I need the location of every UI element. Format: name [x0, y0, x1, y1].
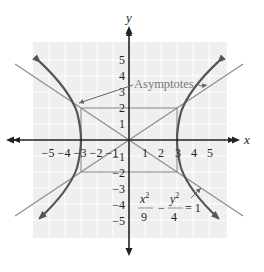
svg-text:−: − — [158, 201, 165, 215]
svg-text:1: 1 — [142, 146, 148, 160]
svg-text:−2: −2 — [90, 146, 103, 160]
svg-text:−3: −3 — [112, 182, 125, 196]
svg-text:5: 5 — [207, 146, 213, 160]
svg-text:−2: −2 — [112, 166, 125, 180]
svg-text:4: 4 — [191, 146, 197, 160]
y-axis-label: y — [124, 10, 132, 25]
svg-text:9: 9 — [141, 210, 147, 224]
svg-text:2: 2 — [119, 101, 125, 115]
svg-text:−4: −4 — [58, 146, 71, 160]
svg-text:2: 2 — [158, 146, 164, 160]
svg-text:−1: −1 — [112, 150, 125, 164]
svg-text:= 1: = 1 — [185, 201, 201, 215]
svg-text:4: 4 — [171, 210, 177, 224]
svg-text:−5: −5 — [112, 214, 125, 228]
svg-text:4: 4 — [119, 69, 125, 83]
svg-text:−4: −4 — [112, 198, 125, 212]
x-axis-label: x — [243, 132, 250, 147]
svg-text:1: 1 — [119, 117, 125, 131]
asymptotes-label: Asymptotes — [134, 77, 194, 91]
hyperbola-figure: x y −5 −4 −3 −2 −1 1 2 3 4 5 5 4 3 2 1 −… — [0, 0, 264, 272]
svg-text:3: 3 — [175, 146, 181, 160]
svg-text:−3: −3 — [74, 146, 87, 160]
svg-text:5: 5 — [119, 53, 125, 67]
svg-text:3: 3 — [119, 85, 125, 99]
svg-text:−5: −5 — [42, 146, 55, 160]
